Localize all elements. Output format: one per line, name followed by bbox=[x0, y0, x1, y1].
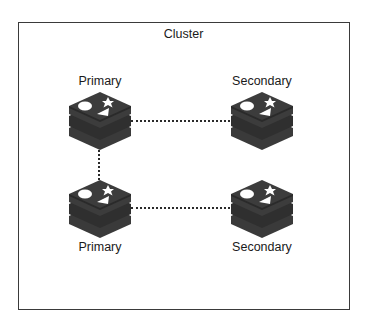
node-label-secondary-2: Secondary bbox=[217, 240, 307, 254]
node-label-primary-1: Primary bbox=[55, 74, 145, 88]
link-primary-1-to-primary-2 bbox=[98, 150, 100, 184]
node-label-primary-2: Primary bbox=[55, 240, 145, 254]
database-stack-icon bbox=[229, 92, 295, 152]
link-primary-1-to-secondary-1 bbox=[131, 120, 230, 122]
database-stack-icon bbox=[67, 92, 133, 152]
node-label-secondary-1: Secondary bbox=[217, 74, 307, 88]
cluster-title: Cluster bbox=[0, 27, 367, 41]
cluster-container bbox=[18, 22, 350, 310]
database-stack-icon bbox=[229, 180, 295, 240]
link-primary-2-to-secondary-2 bbox=[131, 207, 230, 209]
database-stack-icon bbox=[67, 180, 133, 240]
